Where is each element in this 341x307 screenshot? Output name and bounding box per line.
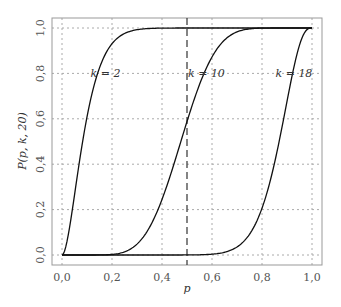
y-tick-label: 1,0 [34, 19, 47, 37]
curve-label: k = 10 [188, 67, 225, 80]
y-axis-label: P(p, k, 20) [16, 112, 29, 171]
y-tick-label: 0,6 [34, 110, 47, 128]
x-tick-label: 0,8 [253, 271, 271, 284]
x-tick-label: 0,0 [53, 271, 71, 284]
x-tick-label: 1,0 [303, 271, 321, 284]
curve-label: k = 2 [91, 67, 121, 80]
x-tick-label: 0,2 [103, 271, 121, 284]
y-axis-ticks: 0,00,20,40,60,81,0 [34, 19, 47, 264]
y-tick-label: 0,4 [34, 155, 47, 173]
x-axis-label: p [183, 282, 190, 295]
x-tick-label: 0,4 [153, 271, 171, 284]
y-tick-label: 0,8 [34, 65, 47, 83]
x-tick-label: 0,6 [203, 271, 221, 284]
y-tick-label: 0,0 [34, 246, 47, 264]
curve-label: k = 18 [276, 67, 313, 80]
y-tick-label: 0,2 [34, 201, 47, 219]
line-chart: 0,00,20,40,60,81,0 0,00,20,40,60,81,0 k … [0, 0, 341, 307]
